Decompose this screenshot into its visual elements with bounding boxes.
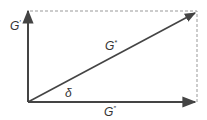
vector-diagram: G′ G* δ G″ xyxy=(0,0,207,120)
loss-modulus-symbol: G xyxy=(104,105,113,119)
loss-modulus-double-prime: ″ xyxy=(113,105,115,112)
phase-angle-label: δ xyxy=(65,87,72,99)
complex-modulus-symbol: G xyxy=(105,39,114,53)
complex-modulus-arrow xyxy=(28,13,195,102)
storage-modulus-label: G′ xyxy=(10,20,21,32)
loss-modulus-label: G″ xyxy=(104,106,116,118)
complex-modulus-label: G* xyxy=(105,40,117,52)
diagram-canvas xyxy=(0,0,207,120)
delta-symbol: δ xyxy=(65,86,72,100)
storage-modulus-prime: ′ xyxy=(19,19,20,26)
complex-modulus-star: * xyxy=(114,39,117,46)
storage-modulus-symbol: G xyxy=(10,19,19,33)
